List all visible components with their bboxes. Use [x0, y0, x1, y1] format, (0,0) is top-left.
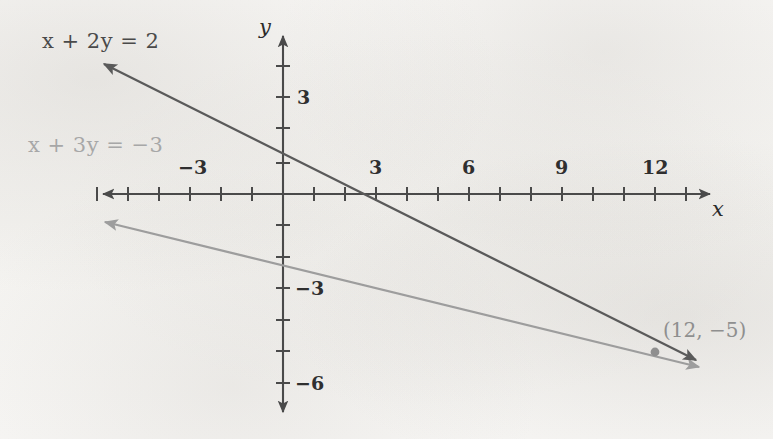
coordinate-plot: [0, 0, 773, 439]
y-tick-label-3: 3: [297, 88, 310, 107]
figure-canvas: −3 3 6 9 12 3 −3 −6 y x x + 2y = 2 x + 3…: [0, 0, 773, 439]
x-tick-label-neg3: −3: [178, 158, 207, 177]
y-axis-label: y: [259, 17, 271, 38]
x-tick-label-3: 3: [369, 158, 382, 177]
x-axis-label: x: [712, 199, 724, 220]
y-tick-label-neg3: −3: [295, 279, 324, 298]
x-axis: [97, 187, 710, 201]
y-tick-label-neg6: −6: [295, 374, 324, 393]
line-x-plus-2y-eq-2: [104, 64, 696, 360]
y-axis: [276, 36, 290, 412]
intersection-point-dot: [651, 348, 660, 357]
x-tick-label-9: 9: [555, 158, 568, 177]
line-x-plus-3y-eq-minus3: [105, 222, 699, 367]
x-tick-label-6: 6: [462, 158, 475, 177]
x-tick-label-12: 12: [642, 158, 668, 177]
